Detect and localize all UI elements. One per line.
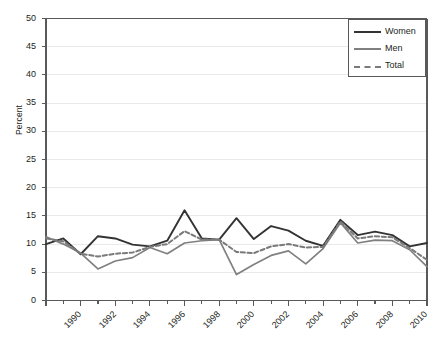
legend-item-total: Total: [354, 59, 424, 73]
series-line-men: [46, 223, 427, 275]
legend-swatch-men-icon: [354, 48, 381, 50]
legend-item-women: Women: [354, 25, 424, 39]
legend-label-men: Men: [385, 43, 403, 53]
legend-item-men: Men: [354, 42, 424, 56]
legend-swatch-women-icon: [354, 31, 381, 33]
legend-label-total: Total: [385, 60, 404, 70]
legend-label-women: Women: [385, 26, 416, 36]
series-line-women: [46, 210, 427, 254]
line-chart: Percent 05101520253035404550 19901992199…: [0, 0, 442, 345]
legend-swatch-total-icon: [354, 66, 381, 68]
chart-legend: Women Men Total: [348, 19, 426, 77]
